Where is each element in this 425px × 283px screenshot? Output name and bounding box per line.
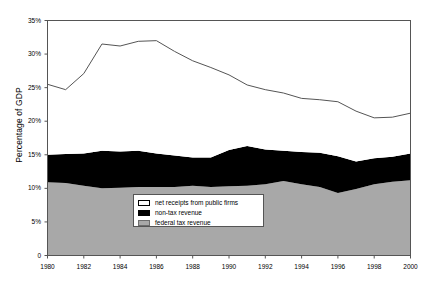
- chart-legend: net receipts from public firms non-tax r…: [133, 194, 264, 227]
- legend-item-net-receipts: net receipts from public firms: [138, 198, 259, 207]
- white-swatch-icon: [138, 200, 150, 206]
- plot-area: [0, 0, 425, 283]
- black-swatch-icon: [138, 210, 150, 216]
- legend-label-net-receipts: net receipts from public firms: [155, 199, 238, 206]
- gray-swatch-icon: [138, 220, 150, 226]
- legend-label-federal-tax-revenue: federal tax revenue: [155, 219, 211, 226]
- legend-label-non-tax-revenue: non-tax revenue: [155, 209, 202, 216]
- legend-item-non-tax-revenue: non-tax revenue: [138, 208, 259, 217]
- area-net-receipts-from-public-firms: [48, 41, 411, 162]
- legend-item-federal-tax-revenue: federal tax revenue: [138, 218, 259, 227]
- revenue-composition-chart: Percentage of GDP 05%10%15%20%25%30%35% …: [0, 0, 425, 283]
